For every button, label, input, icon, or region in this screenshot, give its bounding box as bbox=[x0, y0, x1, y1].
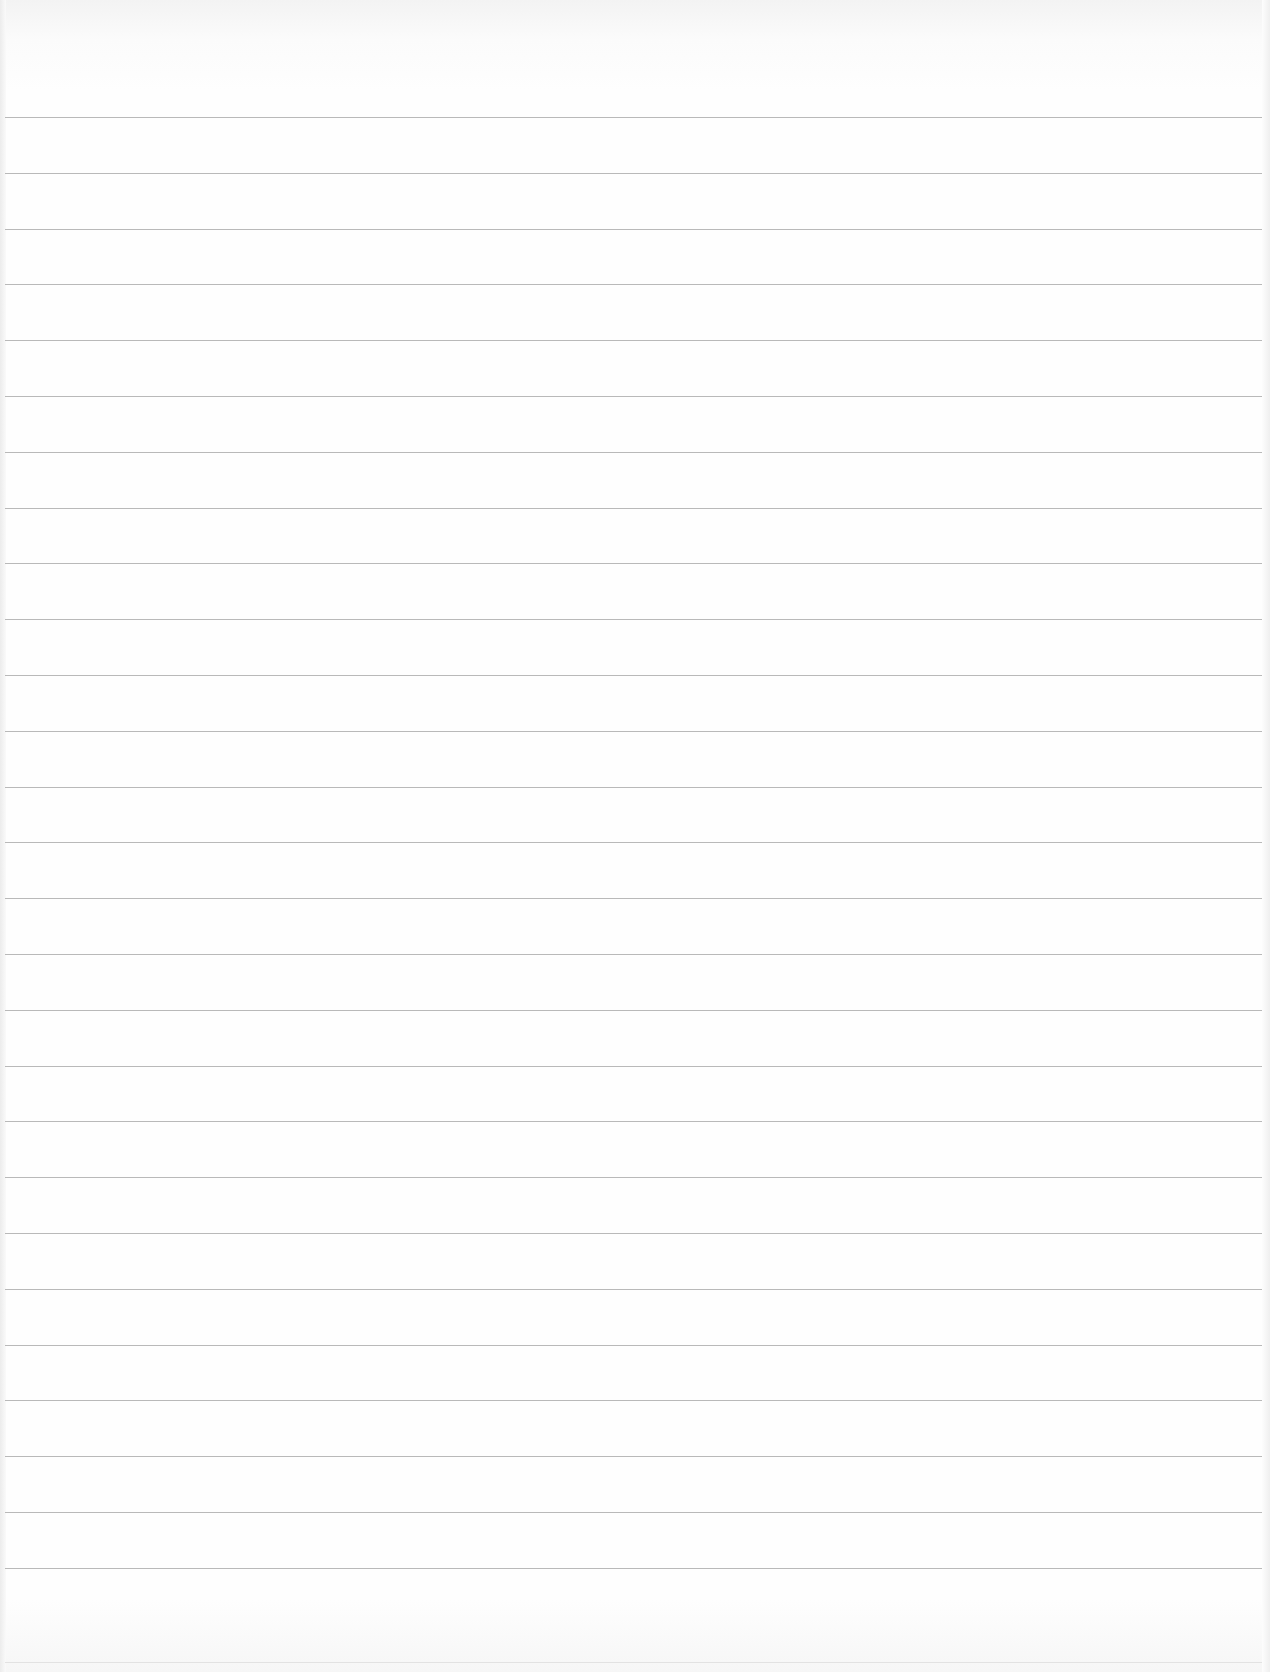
ruled-line bbox=[5, 1177, 1262, 1178]
ruled-line bbox=[5, 1456, 1262, 1457]
ruled-line bbox=[5, 284, 1262, 285]
ruled-line bbox=[5, 954, 1262, 955]
ruled-line bbox=[5, 1400, 1262, 1401]
ruled-line bbox=[5, 508, 1262, 509]
ruled-line bbox=[5, 340, 1262, 341]
ruled-line bbox=[5, 1121, 1262, 1122]
ruled-line bbox=[5, 619, 1262, 620]
ruled-line bbox=[5, 396, 1262, 397]
ruled-line bbox=[5, 842, 1262, 843]
ruled-line bbox=[5, 563, 1262, 564]
ruled-line bbox=[5, 1345, 1262, 1346]
ruled-line bbox=[5, 229, 1262, 230]
ruled-line bbox=[5, 787, 1262, 788]
bottom-edge-line bbox=[5, 1662, 1262, 1663]
ruled-line bbox=[5, 1568, 1262, 1569]
ruled-line bbox=[5, 675, 1262, 676]
ruled-line bbox=[5, 1512, 1262, 1513]
page-left-edge bbox=[0, 0, 6, 1672]
ruled-line bbox=[5, 452, 1262, 453]
page-right-edge bbox=[1262, 0, 1270, 1672]
ruled-line bbox=[5, 1289, 1262, 1290]
ruled-line bbox=[5, 1066, 1262, 1067]
ruled-line bbox=[5, 731, 1262, 732]
ruled-line bbox=[5, 117, 1262, 118]
ruled-line bbox=[5, 898, 1262, 899]
ruled-line bbox=[5, 173, 1262, 174]
lined-paper-page bbox=[0, 0, 1270, 1672]
ruled-line bbox=[5, 1010, 1262, 1011]
ruled-line bbox=[5, 1233, 1262, 1234]
